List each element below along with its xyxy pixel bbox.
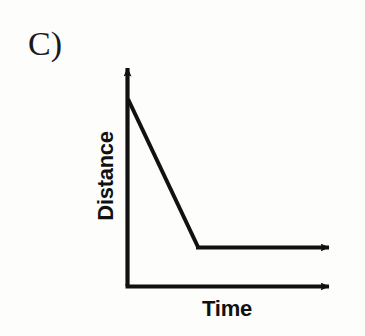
- y-axis-title-text: Distance: [95, 131, 117, 220]
- x-axis-title: Time: [202, 297, 252, 321]
- figure-panel: C) Distance Time: [0, 0, 365, 336]
- y-axis-title: Distance: [95, 130, 117, 222]
- plot-area: [0, 0, 365, 336]
- distance-time-curve: [128, 99, 198, 247]
